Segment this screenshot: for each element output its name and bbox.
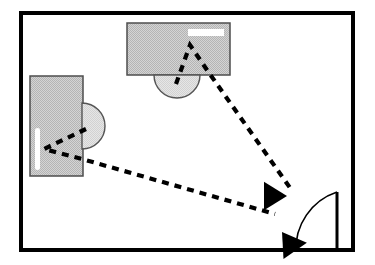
floor-plan-canvas: [0, 0, 375, 265]
desk-left: [30, 76, 83, 176]
arrowhead-group: [264, 182, 307, 259]
arrow-upper-to-door: [264, 182, 287, 211]
chair-left: [82, 103, 105, 149]
desk-top-highlight: [188, 29, 224, 36]
desk-top: [127, 23, 230, 75]
arrow-lower-to-door: [270, 224, 307, 259]
floor-plan-diagram: [0, 0, 375, 265]
desk-left-highlight: [35, 128, 40, 170]
